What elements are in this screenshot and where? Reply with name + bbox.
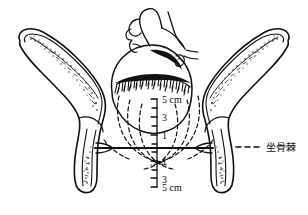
diagram-canvas: 5 cm 3 1 1 3 5 cm 坐骨棘 [0,0,308,215]
left-bone-texture [30,35,98,183]
right-bone-hatching [213,38,275,182]
scale-ticks [151,99,157,187]
left-bone-hatching [33,38,95,182]
right-pelvic-bone [195,29,289,193]
scale-tick-label-minus1: 1 [162,156,167,167]
fetal-head [111,9,198,134]
station-scale: 5 cm 3 1 1 3 5 cm [151,94,182,193]
ischial-spine-callout: 坐骨棘 [236,142,296,153]
scale-tick-label-plus3: 3 [162,112,167,123]
scale-tick-label-plus5: 5 cm [162,94,182,105]
scale-tick-label-plus1: 1 [162,130,167,141]
callout-label-text: 坐骨棘 [266,142,296,153]
right-bone-texture [210,35,278,183]
left-pelvic-bone [19,29,113,193]
scale-tick-label-minus5: 5 cm [162,182,182,193]
station-diagram-figure: 5 cm 3 1 1 3 5 cm 坐骨棘 [0,0,308,215]
